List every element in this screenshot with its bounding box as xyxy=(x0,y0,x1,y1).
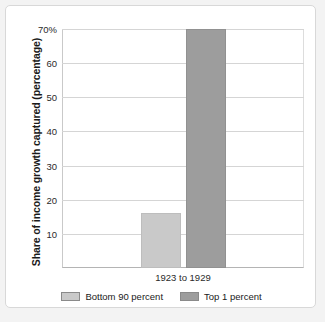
legend-item[interactable]: Bottom 90 percent xyxy=(61,291,163,302)
y-tick-label: 70% xyxy=(38,24,57,35)
plot-area: 10203040506070% xyxy=(62,29,304,268)
legend-swatch-icon xyxy=(180,292,199,301)
plot-frame xyxy=(62,29,304,268)
gridline xyxy=(62,97,304,98)
gridline xyxy=(62,63,304,64)
bar-bottom-90-percent xyxy=(141,213,181,268)
gridline xyxy=(62,200,304,201)
legend-item[interactable]: Top 1 percent xyxy=(180,291,262,302)
y-axis-title: Share of income growth captured (percent… xyxy=(30,27,42,277)
chart-legend: Bottom 90 percentTop 1 percent xyxy=(6,291,317,302)
y-tick-label: 10 xyxy=(46,228,57,239)
y-tick-label: 30 xyxy=(46,160,57,171)
bar-top-1-percent xyxy=(186,29,226,268)
gridline xyxy=(62,234,304,235)
gridline xyxy=(62,166,304,167)
chart-card: Share of income growth captured (percent… xyxy=(5,5,316,308)
legend-swatch-icon xyxy=(61,292,80,301)
y-tick-label: 40 xyxy=(46,126,57,137)
y-tick-label: 50 xyxy=(46,92,57,103)
y-tick-label: 60 xyxy=(46,58,57,69)
legend-label: Top 1 percent xyxy=(204,291,262,302)
gridline xyxy=(62,131,304,132)
gridline xyxy=(62,29,304,30)
y-tick-label: 20 xyxy=(46,194,57,205)
x-axis-category-label: 1923 to 1929 xyxy=(62,272,304,283)
legend-label: Bottom 90 percent xyxy=(85,291,163,302)
